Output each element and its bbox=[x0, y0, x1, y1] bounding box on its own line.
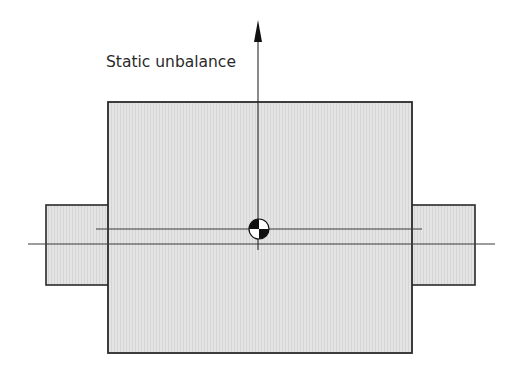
left-shaft bbox=[46, 205, 109, 285]
center-of-mass-icon bbox=[249, 219, 269, 239]
arrowhead-icon bbox=[254, 20, 262, 42]
right-shaft bbox=[411, 205, 475, 285]
diagram-label: Static unbalance bbox=[106, 53, 236, 71]
static-unbalance-diagram: Static unbalance bbox=[0, 0, 523, 375]
